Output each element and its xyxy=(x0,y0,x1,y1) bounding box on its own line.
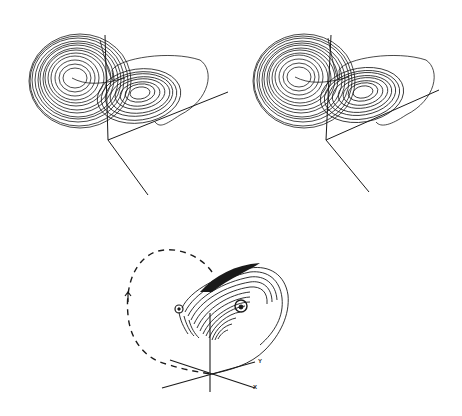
attractor-right-view xyxy=(231,0,462,210)
left-wing-spiral xyxy=(253,34,355,128)
axis-label-x: X xyxy=(253,384,257,390)
dashed-orbit xyxy=(127,250,212,374)
spiral-fan xyxy=(179,267,288,374)
orbit-arrow-icon xyxy=(125,292,131,302)
fixed-point-left xyxy=(175,305,183,313)
lorenz-attractor-right-svg xyxy=(231,0,462,210)
lorenz-attractor-left-svg xyxy=(0,0,231,210)
fixed-point-right xyxy=(235,300,247,312)
axis-label-y: Y xyxy=(258,358,262,364)
trajectory-3d-view: Y X xyxy=(100,220,360,416)
trajectory-svg: Y X xyxy=(100,220,360,416)
attractor-left-view xyxy=(0,0,231,210)
